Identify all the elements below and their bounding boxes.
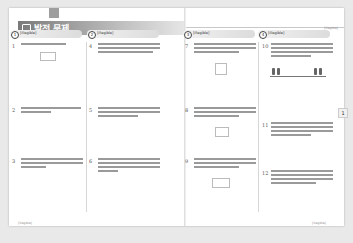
section-number: 4 [259,31,267,39]
problem-number: 2 [12,107,15,113]
problem-number: 3 [12,158,15,164]
right-page-header: [illegible] [186,21,344,28]
section-title: [illegible] [268,31,284,35]
top-tab [49,8,59,18]
section-title: [illegible] [193,31,209,35]
section-title: [illegible] [20,31,36,35]
section-header-3: 3 [illegible] [183,30,255,38]
problem-number: 8 [185,107,188,113]
section-number: 1 [11,31,19,39]
page-binding [184,8,186,226]
problem-number: 10 [262,43,268,49]
column-2: 2 [illegible] [87,30,159,38]
column-4: 4 [illegible] [258,30,330,38]
column-divider [86,42,87,212]
textbook-spread: 발전 문제 [illegible] [9,8,344,226]
problem-number: 1 [12,43,15,49]
answer-box [212,178,230,188]
footer-right: [illegible] [312,221,326,225]
column-1: 1 [illegible] [10,30,82,38]
problem-number: 12 [262,170,268,176]
column-divider [258,42,259,212]
tree-figure [270,65,330,83]
section-header-4: 4 [illegible] [258,30,330,38]
section-number: 3 [184,31,192,39]
section-header-1: 1 [illegible] [10,30,82,38]
section-number: 2 [88,31,96,39]
chapter-side-tab: 1 [338,108,348,118]
problem-number: 9 [185,158,188,164]
footer-left: [illegible] [18,221,32,225]
problem-number: 7 [185,43,188,49]
answer-box [40,52,56,61]
column-3: 3 [illegible] [183,30,255,38]
problem-number: 11 [262,122,268,128]
answer-box [215,127,229,137]
section-title: [illegible] [97,31,113,35]
problem-number: 6 [89,158,92,164]
section-header-2: 2 [illegible] [87,30,159,38]
problem-number: 4 [89,43,92,49]
problem-number: 5 [89,107,92,113]
answer-box [215,63,227,75]
